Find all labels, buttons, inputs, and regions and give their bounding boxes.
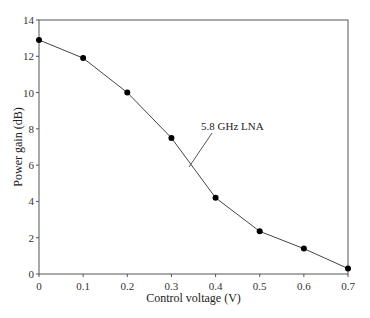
annotation-label: 5.8 GHz LNA (201, 120, 264, 132)
data-markers (36, 37, 351, 272)
y-tick-label: 14 (23, 14, 35, 26)
y-tick-label: 0 (29, 268, 35, 280)
series-line (39, 40, 348, 269)
data-point-marker (80, 55, 86, 61)
x-tick-label: 0.1 (76, 280, 90, 292)
y-tick-label: 8 (29, 123, 35, 135)
data-point-marker (257, 228, 263, 234)
y-tick-label: 6 (29, 159, 35, 171)
y-axis-label: Power gain (dB) (11, 107, 25, 186)
data-point-marker (168, 135, 174, 141)
x-axis-ticks: 00.10.20.30.40.50.60.7 (36, 274, 355, 292)
y-tick-label: 2 (29, 232, 35, 244)
series-annotation: 5.8 GHz LNA (189, 120, 264, 167)
x-axis-label: Control voltage (V) (146, 291, 241, 305)
y-axis-ticks: 02468101214 (23, 14, 39, 280)
data-point-marker (213, 195, 219, 201)
gain-curve (39, 40, 348, 269)
y-tick-label: 10 (23, 87, 35, 99)
data-point-marker (345, 266, 351, 272)
x-tick-label: 0.6 (297, 280, 311, 292)
y-tick-label: 12 (23, 50, 34, 62)
annotation-leader-line (189, 133, 212, 167)
data-point-marker (124, 90, 130, 96)
data-point-marker (301, 246, 307, 252)
power-gain-chart: 02468101214 00.10.20.30.40.50.60.7 5.8 G… (0, 0, 370, 318)
data-point-marker (36, 37, 42, 43)
x-tick-label: 0.2 (120, 280, 134, 292)
x-tick-label: 0 (36, 280, 42, 292)
x-tick-label: 0.5 (253, 280, 267, 292)
y-tick-label: 4 (29, 195, 35, 207)
x-tick-label: 0.7 (341, 280, 355, 292)
